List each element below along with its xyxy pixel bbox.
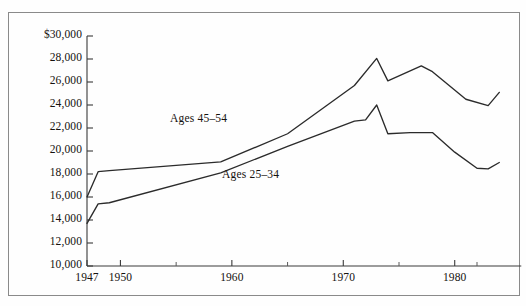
series-line-1 — [87, 58, 499, 197]
y-axis-tick-label: 12,000 — [50, 235, 82, 247]
y-axis-tick-label: 22,000 — [50, 120, 82, 132]
y-axis-tick-label: 24,000 — [50, 97, 82, 109]
y-axis-tick-label: 14,000 — [50, 212, 82, 224]
y-axis-tick-label: 18,000 — [50, 166, 82, 178]
figure-container: $30,00028,00026,00024,00022,00020,00018,… — [0, 0, 526, 306]
y-axis-tick-label: 28,000 — [50, 51, 82, 63]
axes-group — [87, 36, 521, 266]
y-axis-tick-label: $30,000 — [44, 28, 82, 40]
x-axis-tick-label: 1970 — [321, 271, 365, 283]
series-group — [87, 58, 499, 223]
x-axis-tick-label: 1980 — [433, 271, 477, 283]
series-label-2: Ages 25–34 — [222, 168, 279, 180]
x-axis-tick-label: 1950 — [98, 271, 142, 283]
x-axis-tick-label: 1960 — [210, 271, 254, 283]
series-line-2 — [87, 105, 499, 223]
y-axis-tick-label: 26,000 — [50, 74, 82, 86]
series-label-1: Ages 45–54 — [170, 112, 227, 124]
y-axis-tick-label: 16,000 — [50, 189, 82, 201]
y-axis-tick-label: 10,000 — [50, 258, 82, 270]
y-axis-tick-label: 20,000 — [50, 143, 82, 155]
